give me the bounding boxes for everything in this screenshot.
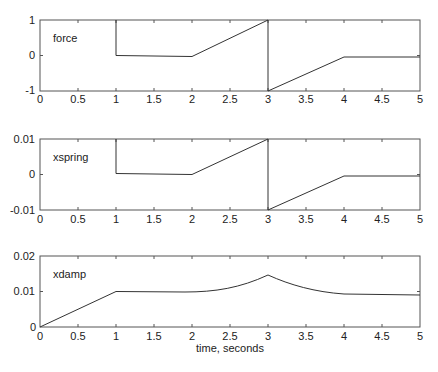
svg-text:1: 1 — [113, 213, 119, 225]
force-series-line — [116, 20, 420, 91]
force-ytick-bottom: -1 — [25, 84, 35, 96]
svg-text:0: 0 — [37, 330, 43, 342]
svg-text:5: 5 — [417, 330, 423, 342]
xspring-ytick-bottom: -0.01 — [10, 204, 35, 216]
svg-text:3.5: 3.5 — [298, 93, 313, 105]
force-x-tick-labels: 0 0.5 1 1.5 2 2.5 3 3.5 4 4.5 5 — [37, 93, 423, 105]
xspring-axes-frame — [40, 139, 420, 210]
svg-text:2: 2 — [189, 330, 195, 342]
svg-text:0: 0 — [37, 93, 43, 105]
xspring-x-tick-labels: 0 0.5 1 1.5 2 2.5 3 3.5 4 4.5 5 — [37, 213, 423, 225]
xdamp-ytick-top: 0.02 — [14, 250, 35, 262]
svg-text:1.5: 1.5 — [146, 213, 161, 225]
svg-text:2.5: 2.5 — [222, 213, 237, 225]
xspring-label: xspring — [53, 151, 88, 163]
svg-text:2: 2 — [189, 213, 195, 225]
xspring-x-ticks — [40, 139, 420, 210]
xspring-panel: xspring 0.01 0 -0.01 0 0.5 1 1.5 2 2.5 3… — [10, 133, 423, 225]
svg-text:4: 4 — [341, 93, 347, 105]
xdamp-ytick-mid: 0.01 — [14, 285, 35, 297]
xdamp-axes-frame — [40, 256, 420, 327]
svg-text:3: 3 — [265, 93, 271, 105]
force-panel: force 1 0 -1 0 0.5 1 1.5 2 2.5 3 3.5 4 4… — [25, 14, 423, 105]
svg-text:3.5: 3.5 — [298, 330, 313, 342]
xspring-ytick-top: 0.01 — [14, 133, 35, 145]
svg-text:0.5: 0.5 — [70, 330, 85, 342]
svg-text:0.5: 0.5 — [70, 213, 85, 225]
xdamp-x-tick-labels: 0 0.5 1 1.5 2 2.5 3 3.5 4 4.5 5 — [37, 330, 423, 342]
svg-text:4: 4 — [341, 213, 347, 225]
svg-text:4.5: 4.5 — [374, 213, 389, 225]
svg-text:5: 5 — [417, 93, 423, 105]
svg-text:4.5: 4.5 — [374, 93, 389, 105]
svg-text:1.5: 1.5 — [146, 93, 161, 105]
svg-text:2: 2 — [189, 93, 195, 105]
svg-text:3: 3 — [265, 213, 271, 225]
x-axis-label: time, seconds — [196, 342, 264, 354]
svg-text:2.5: 2.5 — [222, 93, 237, 105]
svg-text:1.5: 1.5 — [146, 330, 161, 342]
xdamp-x-ticks — [40, 256, 420, 327]
xspring-ytick-mid: 0 — [29, 168, 35, 180]
chart-figure: force 1 0 -1 0 0.5 1 1.5 2 2.5 3 3.5 4 4… — [0, 0, 438, 372]
force-ytick-mid: 0 — [29, 49, 35, 61]
svg-text:5: 5 — [417, 213, 423, 225]
svg-text:3: 3 — [265, 330, 271, 342]
force-ytick-top: 1 — [29, 14, 35, 26]
svg-text:1: 1 — [113, 330, 119, 342]
svg-text:2.5: 2.5 — [222, 330, 237, 342]
xdamp-ytick-bottom: 0 — [30, 321, 36, 333]
force-label: force — [53, 32, 77, 44]
xdamp-panel: xdamp 0.02 0.01 0 0 0.5 1 1.5 2 2.5 3 3.… — [14, 250, 423, 354]
force-axes-frame — [40, 20, 420, 91]
xdamp-label: xdamp — [53, 268, 86, 280]
svg-text:4.5: 4.5 — [374, 330, 389, 342]
svg-text:4: 4 — [341, 330, 347, 342]
xdamp-series-line — [40, 275, 420, 327]
svg-text:0.5: 0.5 — [70, 93, 85, 105]
svg-text:3.5: 3.5 — [298, 213, 313, 225]
force-x-ticks — [40, 20, 420, 91]
svg-text:1: 1 — [113, 93, 119, 105]
svg-text:0: 0 — [37, 213, 43, 225]
xspring-series-line — [116, 139, 420, 210]
